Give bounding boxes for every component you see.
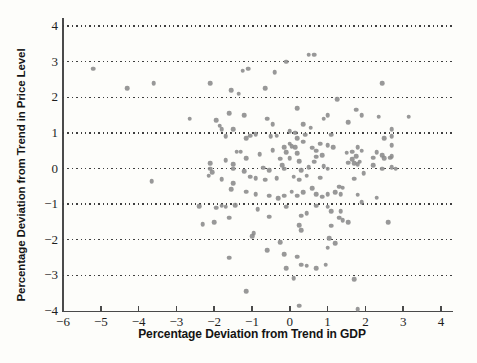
scatter-point (282, 145, 287, 150)
scatter-point (301, 122, 306, 127)
scatter-point (305, 173, 310, 178)
scatter-point (346, 220, 351, 225)
scatter-point (306, 52, 311, 57)
scatter-point (261, 165, 266, 170)
scatter-point (297, 303, 302, 308)
scatter-point (229, 187, 234, 192)
scatter-point (382, 136, 387, 141)
scatter-point (242, 169, 247, 174)
y-tick-label--1: −1 (44, 196, 58, 212)
scatter-point (297, 159, 302, 164)
scatter-point (325, 143, 330, 148)
scatter-point (356, 193, 361, 198)
scatter-point (267, 193, 272, 198)
scatter-point (314, 266, 319, 271)
scatter-point (223, 134, 228, 139)
scatter-point (238, 149, 243, 154)
scatter-point (244, 189, 249, 194)
scatter-point (291, 174, 296, 179)
scatter-point (333, 190, 338, 195)
scatter-point (288, 156, 293, 161)
scatter-point (91, 66, 96, 71)
scatter-point (359, 148, 364, 153)
scatter-point (227, 215, 232, 220)
scatter-point (231, 127, 236, 132)
y-tick-label--3: −3 (44, 267, 58, 283)
scatter-point (390, 143, 395, 148)
scatter-point (371, 163, 376, 168)
x-tick-label--1: −1 (245, 314, 259, 330)
x-tick-label--5: −5 (94, 314, 108, 330)
y-tick-label-2: 2 (52, 89, 59, 105)
y-tick-label-0: 0 (52, 161, 59, 177)
scatter-point (295, 136, 300, 141)
scatter-point (305, 211, 310, 216)
scatter-point (339, 209, 344, 214)
scatter-point (314, 203, 319, 208)
scatter-point (310, 146, 315, 151)
scatter-point (242, 113, 247, 118)
scatter-point (359, 200, 364, 205)
scatter-point (390, 134, 395, 139)
scatter-point (386, 220, 391, 225)
y-tick-label-1: 1 (52, 125, 59, 141)
x-tick-1 (327, 306, 329, 311)
scatter-point (150, 179, 155, 184)
scatter-point (201, 222, 206, 227)
scatter-point (339, 192, 344, 197)
scatter-point (310, 186, 315, 191)
scatter-point (274, 176, 279, 181)
scatter-point (236, 91, 241, 96)
x-tick-label-3: 3 (400, 314, 407, 330)
scatter-point (231, 181, 236, 186)
scatter-point (325, 245, 330, 250)
y-tick-label--4: −4 (44, 303, 58, 319)
scatter-point (371, 156, 376, 161)
scatter-point (390, 165, 395, 170)
y-tick-label--2: −2 (44, 232, 58, 248)
y-tick-label-3: 3 (52, 54, 59, 70)
scatter-point (267, 214, 272, 219)
scatter-point (325, 204, 330, 209)
scatter-point (244, 156, 249, 161)
scatter-point (335, 97, 340, 102)
gridline-y--3 (63, 275, 453, 276)
scatter-point (299, 168, 304, 173)
scatter-point (352, 177, 357, 182)
scatter-point (390, 127, 395, 132)
scatter-point (278, 240, 283, 245)
scatter-point (297, 178, 302, 183)
scatter-point (306, 165, 311, 170)
scatter-point (263, 86, 268, 91)
scatter-point (282, 166, 287, 171)
scatter-point (246, 66, 251, 71)
gridline-y--1 (63, 203, 453, 204)
scatter-point (312, 52, 317, 57)
scatter-point (374, 195, 379, 200)
scatter-point (282, 252, 287, 257)
scatter-point (197, 204, 202, 209)
x-tick-3 (402, 306, 404, 311)
scatter-point (295, 193, 300, 198)
scatter-point (312, 159, 317, 164)
scatter-point (289, 189, 294, 194)
scatter-point (187, 116, 192, 121)
scatter-point (295, 106, 300, 111)
scatter-point (214, 205, 219, 210)
scatter-point (265, 116, 270, 121)
scatter-point (231, 166, 236, 171)
scatter-point (253, 192, 258, 197)
plot-area: −6−5−4−3−2−101234−4−3−2−101234 (63, 26, 441, 311)
scatter-point (276, 196, 281, 201)
scatter-point (376, 115, 381, 120)
x-tick--1 (251, 306, 253, 311)
scatter-point (227, 111, 232, 116)
figure: Percentage Deviation from Trend in Price… (0, 0, 477, 363)
scatter-point (359, 113, 364, 118)
scatter-point (314, 154, 319, 159)
scatter-point (325, 113, 330, 118)
x-tick-2 (365, 306, 367, 311)
scatter-point (329, 209, 334, 214)
scatter-point (214, 118, 219, 123)
scatter-point (340, 218, 345, 223)
